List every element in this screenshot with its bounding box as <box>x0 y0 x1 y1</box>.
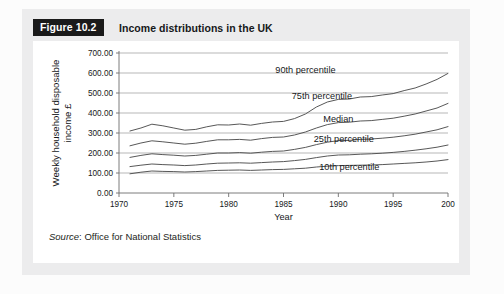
svg-text:1990: 1990 <box>329 200 348 209</box>
svg-text:Year: Year <box>274 212 293 222</box>
svg-text:90th percentile: 90th percentile <box>275 65 335 75</box>
svg-text:10th percentile: 10th percentile <box>319 162 379 172</box>
svg-text:300.00: 300.00 <box>88 129 113 138</box>
svg-text:200: 200 <box>441 200 455 209</box>
svg-text:Median: Median <box>323 114 353 124</box>
svg-text:1995: 1995 <box>384 200 403 209</box>
svg-text:Weekly household disposable: Weekly household disposable <box>50 60 61 187</box>
svg-text:75th percentile: 75th percentile <box>292 91 352 101</box>
svg-text:400.00: 400.00 <box>88 109 113 118</box>
source-text: : Office for National Statistics <box>79 231 201 242</box>
plot-card: 0.00100.00200.00300.00400.00500.00600.00… <box>33 41 459 263</box>
svg-text:700.00: 700.00 <box>88 49 113 58</box>
svg-text:25th percentile: 25th percentile <box>314 134 374 144</box>
chart-svg: 0.00100.00200.00300.00400.00500.00600.00… <box>33 41 459 227</box>
svg-text:500.00: 500.00 <box>88 89 113 98</box>
source-label: Source <box>49 231 79 242</box>
svg-text:600.00: 600.00 <box>88 69 113 78</box>
svg-text:0.00: 0.00 <box>97 189 113 198</box>
figure-screenshot: Figure 10.2 Income distributions in the … <box>0 0 504 294</box>
svg-text:1970: 1970 <box>110 200 129 209</box>
svg-text:1980: 1980 <box>220 200 239 209</box>
figure-number-tag: Figure 10.2 <box>33 19 104 36</box>
svg-text:1975: 1975 <box>165 200 184 209</box>
svg-text:100.00: 100.00 <box>88 169 113 178</box>
svg-text:income £: income £ <box>62 103 73 143</box>
line-chart: 0.00100.00200.00300.00400.00500.00600.00… <box>33 41 459 227</box>
figure-title: Income distributions in the UK <box>119 22 273 34</box>
svg-text:200.00: 200.00 <box>88 149 113 158</box>
source-note: Source: Office for National Statistics <box>49 231 201 242</box>
svg-text:1985: 1985 <box>274 200 293 209</box>
figure-panel: Figure 10.2 Income distributions in the … <box>22 9 470 275</box>
